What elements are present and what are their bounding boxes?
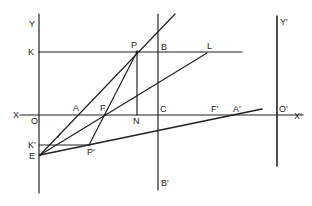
label-C: C [160,104,167,114]
optics-diagram: Y K P B L Y′ X O A F N C F′ A′ O′ X′ K′ … [0,0,312,206]
ray-E-through-P-prime-A-prime [40,109,262,155]
label-P: P [131,40,137,50]
point-F [104,114,106,116]
label-X: X [13,110,19,120]
label-B-prime: B′ [161,178,169,188]
label-N: N [133,116,140,126]
label-E: E [29,151,35,161]
label-O: O [31,116,38,126]
label-K-prime: K′ [28,140,36,150]
label-K: K [28,47,34,57]
point-P [136,51,139,54]
label-B: B [161,42,167,52]
label-A: A [73,103,79,113]
label-L: L [207,41,212,51]
angle-mark [58,134,60,137]
label-A-prime: A′ [233,104,241,114]
label-X-prime: X′ [294,111,302,121]
label-F: F [100,103,106,113]
label-F-prime: F′ [211,104,218,114]
label-P-prime: P′ [87,147,95,157]
point-E [39,154,41,156]
label-Y-prime: Y′ [280,17,288,27]
line-P-F-P-prime [89,52,137,145]
label-O-prime: O′ [279,104,288,114]
label-Y: Y [29,19,35,29]
